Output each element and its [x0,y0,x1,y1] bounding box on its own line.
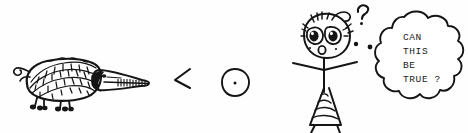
cartoon-scene: CAN THIS BE TRUE ? [0,0,468,133]
question-mark-icon [358,5,368,25]
center-dot [234,82,237,85]
figure-eyes [307,27,341,44]
thought-bubble: CAN THIS BE TRUE ? [354,11,463,98]
pangolin-eye [102,74,107,78]
bubble-line-3: BE [403,60,416,71]
pangolin-drawing [14,57,149,111]
less-than-sign [175,69,190,88]
thought-dot-1 [354,42,358,46]
astonished-stick-figure [293,5,368,133]
bubble-line-2: THIS [403,46,428,57]
pangolin-feet [30,105,74,112]
bubble-line-4: TRUE ? [403,74,441,85]
circle-with-center-dot [222,69,249,96]
bubble-line-1: CAN [403,32,422,43]
figure-mouth [318,46,325,54]
thought-dot-2 [368,45,373,50]
scene-canvas: CAN THIS BE TRUE ? [0,0,468,133]
